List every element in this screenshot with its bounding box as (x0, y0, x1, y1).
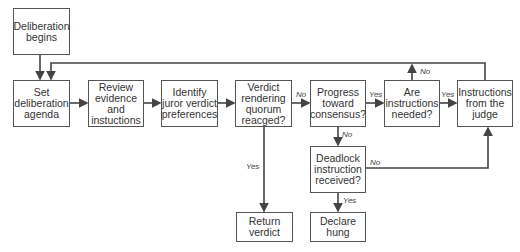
node-review-evidence: Review evidence and instuctions (88, 80, 144, 127)
label-progress-no: No (342, 130, 352, 139)
label-deadlock-no: No (370, 158, 380, 167)
node-instructions-judge: Instructions from the judge (457, 80, 513, 127)
label-needed-yes: Yes (441, 90, 454, 99)
node-identify-preferences: Identify juror verdict preferences (161, 80, 218, 127)
node-declare-hung: Declare hung (310, 212, 366, 242)
node-deliberation-begins: Deliberation begins (13, 8, 70, 55)
label-deadlock-yes: Yes (343, 196, 356, 205)
node-progress-consensus: Progress toward consensus? (310, 80, 366, 127)
node-return-verdict: Return verdict (236, 212, 293, 242)
label-quorum-yes: Yes (246, 162, 259, 171)
label-needed-no: No (420, 67, 430, 76)
label-progress-yes: Yes (369, 90, 382, 99)
node-instructions-needed: Are instructions needed? (384, 80, 440, 127)
node-set-agenda: Set deliberation agenda (13, 80, 70, 127)
label-quorum-no: No (296, 90, 306, 99)
node-deadlock-instruction: Deadlock instruction received? (310, 146, 366, 193)
node-quorum-reached: Verdict rendering quorum reacged? (235, 80, 292, 127)
